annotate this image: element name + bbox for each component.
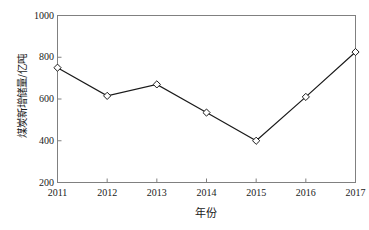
plot-frame [58,16,356,183]
data-markers [54,48,359,144]
x-tick-label: 2017 [334,186,369,200]
data-line [58,52,356,141]
data-point-marker [203,109,210,116]
x-tick-label: 2011 [36,186,80,200]
data-point-marker [54,64,61,71]
axis-frame [58,16,356,183]
x-tick-label: 2012 [85,186,129,200]
x-tick-label: 2015 [234,186,278,200]
tick-marks [58,16,356,183]
line-chart: 煤炭新增储量/亿吨 2004006008001000 2011201220132… [0,0,369,230]
data-point-marker [104,92,111,99]
x-tick-label: 2013 [135,186,179,200]
x-axis-title: 年份 [57,204,355,220]
x-tick-label: 2016 [284,186,328,200]
data-point-marker [153,81,160,88]
x-axis-tick-labels: 2011201220132014201520162017 [0,186,369,202]
x-tick-label: 2014 [185,186,229,200]
